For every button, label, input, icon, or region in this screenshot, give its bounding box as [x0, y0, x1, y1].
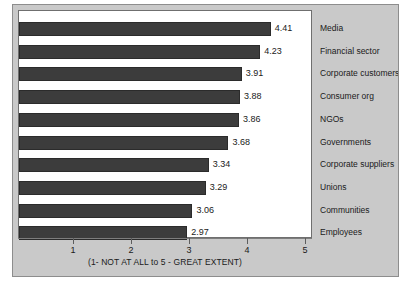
plot-area: 4.414.233.913.883.863.683.343.293.062.97 — [18, 10, 312, 238]
bar-value-label: 3.34 — [213, 157, 231, 172]
bar — [19, 22, 271, 36]
bar — [19, 158, 209, 172]
bar-value-label: 3.29 — [210, 180, 228, 195]
bar-row: 3.29 — [19, 181, 311, 204]
bar-value-label: 3.86 — [243, 112, 261, 127]
bar-value-label: 4.41 — [275, 21, 293, 36]
tick-label: 1 — [70, 245, 75, 255]
legend-item: Communities — [320, 203, 370, 217]
bar — [19, 181, 206, 195]
legend-item: Governments — [320, 135, 371, 149]
bar-value-label: 4.23 — [264, 44, 282, 59]
bar-row: 4.41 — [19, 22, 311, 45]
bar-row: 3.86 — [19, 113, 311, 136]
legend-item: Consumer org — [320, 89, 374, 103]
x-axis-caption: (1- NOT AT ALL to 5 - GREAT EXTENT) — [18, 257, 312, 267]
legend-panel: MediaFinancial sectorCorporate customers… — [312, 10, 393, 238]
bar-row: 3.34 — [19, 158, 311, 181]
bar — [19, 45, 260, 59]
tick-mark — [305, 238, 306, 244]
bar-row: 3.91 — [19, 67, 311, 90]
tick-mark — [73, 238, 74, 244]
bar-row: 3.06 — [19, 204, 311, 227]
bar-row: 3.88 — [19, 90, 311, 113]
tick-mark — [189, 238, 190, 244]
tick-label: 5 — [302, 245, 307, 255]
tick-mark — [247, 238, 248, 244]
bar-value-label: 3.88 — [244, 89, 262, 104]
bar — [19, 136, 228, 150]
bar-row: 3.68 — [19, 136, 311, 159]
legend-item: Employees — [320, 225, 362, 239]
bar-value-label: 3.06 — [196, 203, 214, 218]
tick-mark — [131, 238, 132, 244]
tick-label: 3 — [186, 245, 191, 255]
legend-item: Media — [320, 21, 343, 35]
bar-value-label: 3.91 — [246, 66, 264, 81]
tick-label: 4 — [244, 245, 249, 255]
bar — [19, 67, 242, 81]
legend-item: Financial sector — [320, 44, 380, 58]
legend-item: Corporate suppliers — [320, 157, 394, 171]
legend-item: Unions — [320, 180, 346, 194]
bar-row: 4.23 — [19, 45, 311, 68]
x-axis-line — [18, 238, 312, 239]
bar — [19, 90, 240, 104]
legend-item: Corporate customers — [320, 66, 399, 80]
legend-item: NGOs — [320, 112, 344, 126]
tick-label: 2 — [128, 245, 133, 255]
bar — [19, 113, 239, 127]
chart-frame: 4.414.233.913.883.863.683.343.293.062.97… — [12, 4, 399, 277]
bar — [19, 204, 192, 218]
bar-value-label: 3.68 — [232, 135, 250, 150]
x-axis: 12345 — [18, 238, 312, 239]
